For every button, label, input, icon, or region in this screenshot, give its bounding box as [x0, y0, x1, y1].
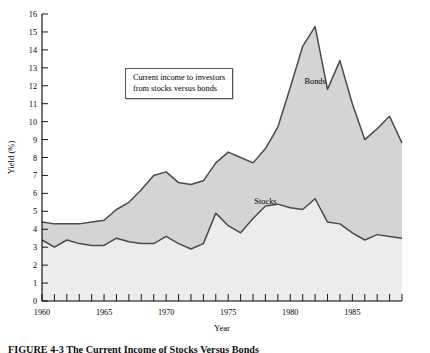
x-tick-label: 1985 [344, 308, 360, 317]
y-tick-label: 11 [29, 100, 37, 109]
figure-caption: FIGURE 4-3 The Current Income of Stocks … [8, 344, 428, 353]
y-tick-label: 13 [29, 64, 37, 73]
annotation-line-1: Current income to investors [133, 72, 225, 83]
annotation-line-2: from stocks versus bonds [133, 83, 225, 94]
x-axis-title: Year [214, 323, 230, 333]
y-tick-label: 2 [33, 261, 37, 270]
y-tick-label: 4 [33, 225, 37, 234]
x-tick-label: 1975 [220, 308, 236, 317]
y-tick-label: 9 [33, 136, 37, 145]
bonds-series-label: Bonds [304, 77, 325, 86]
y-tick-label: 0 [33, 297, 37, 306]
y-tick-label: 3 [33, 243, 37, 252]
y-tick-label: 10 [29, 118, 37, 127]
annotation-callout: Current income to investors from stocks … [125, 68, 233, 99]
x-tick-label: 1960 [34, 308, 50, 317]
y-tick-label: 1 [33, 279, 37, 288]
y-axis-title: Yield (%) [6, 141, 16, 175]
x-tick-label: 1980 [282, 308, 298, 317]
x-tick-label: 1965 [96, 308, 112, 317]
y-tick-label: 14 [29, 46, 37, 55]
y-tick-label: 15 [29, 28, 37, 37]
y-tick-label: 7 [33, 171, 37, 180]
y-tick-label: 5 [33, 207, 37, 216]
y-tick-label: 16 [29, 10, 37, 19]
y-tick-label: 12 [29, 82, 37, 91]
x-tick-label: 1970 [158, 308, 174, 317]
yield-area-chart: 0123456789101112131415161960196519701975… [0, 0, 430, 340]
figure-number: FIGURE 4-3 [8, 344, 64, 353]
y-tick-label: 6 [33, 189, 37, 198]
y-tick-label: 8 [33, 154, 37, 163]
figure-caption-text: The Current Income of Stocks Versus Bond… [66, 344, 259, 353]
figure-container: 0123456789101112131415161960196519701975… [0, 0, 430, 353]
stocks-series-label: Stocks [254, 197, 276, 206]
